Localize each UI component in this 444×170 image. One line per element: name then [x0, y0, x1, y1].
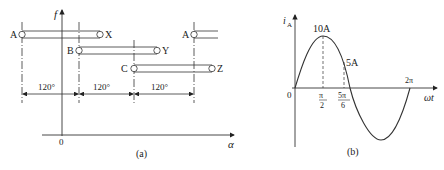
spacing-label-1: 120° — [38, 82, 56, 92]
wt-axis-label: ωt — [424, 92, 434, 103]
label-x-end: X — [105, 29, 113, 40]
label-b-start: B — [67, 45, 74, 56]
tick-pi-over-2-den: 2 — [320, 101, 324, 110]
label-a-start: A — [10, 29, 18, 40]
tick-5pi-over-6-den: 6 — [341, 101, 345, 110]
i-axis-label: i — [283, 15, 286, 26]
origin-label-b: 0 — [287, 90, 292, 100]
winding-a-repeat — [191, 31, 218, 38]
f-axis-label: f — [54, 8, 59, 20]
caption-a: (a) — [136, 148, 147, 160]
origin-label-a: 0 — [59, 137, 64, 147]
tick-pi-over-2-num: π — [319, 91, 323, 100]
figure-b — [292, 15, 437, 147]
label-c-start: C — [121, 63, 128, 74]
label-z-end: Z — [217, 63, 223, 74]
label-y-end: Y — [162, 45, 169, 56]
spacing-label-2: 120° — [93, 82, 111, 92]
winding-cz — [131, 65, 215, 72]
alpha-axis-label: α — [228, 138, 234, 150]
tick-5pi-over-6-num: 5π — [338, 91, 346, 100]
peak-label: 10A — [313, 23, 331, 34]
figure-a-diagram: A X B Y C Z A 120° 120° 120° f α 0 (a) i… — [0, 0, 444, 170]
tick-2pi: 2π — [405, 76, 413, 85]
spacing-label-3: 120° — [151, 82, 169, 92]
caption-b: (b) — [347, 146, 359, 158]
point-label: 5A — [346, 57, 359, 68]
winding-by — [76, 47, 160, 54]
i-axis-subscript: A — [287, 21, 292, 29]
winding-ax — [19, 31, 103, 38]
label-a-repeat: A — [182, 29, 190, 40]
